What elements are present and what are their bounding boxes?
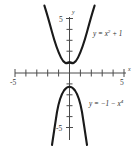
quartic-label-exponent: 4 (121, 99, 124, 104)
x-tick-label-left: -5 (10, 78, 16, 87)
x-tick-label-right: 5 (120, 78, 124, 87)
parabola-label: y = x2 + 1 (92, 29, 122, 38)
graph-figure: y x -5 5 5 -5 y = x2 + 1 y = −1 − x4 (0, 0, 140, 147)
quartic-label-prefix: y = −1 − x (88, 100, 122, 108)
y-tick-label-top: 5 (59, 15, 63, 24)
coordinate-plane-svg: y x -5 5 5 -5 y = x2 + 1 y = −1 − x4 (0, 0, 140, 147)
parabola-label-prefix: y = x (92, 30, 109, 38)
parabola-label-suffix: + 1 (110, 30, 122, 38)
x-axis-label: x (127, 66, 131, 72)
y-tick-label-bottom: -5 (56, 124, 62, 133)
quartic-label: y = −1 − x4 (88, 99, 124, 108)
y-axis-label: y (71, 9, 75, 15)
